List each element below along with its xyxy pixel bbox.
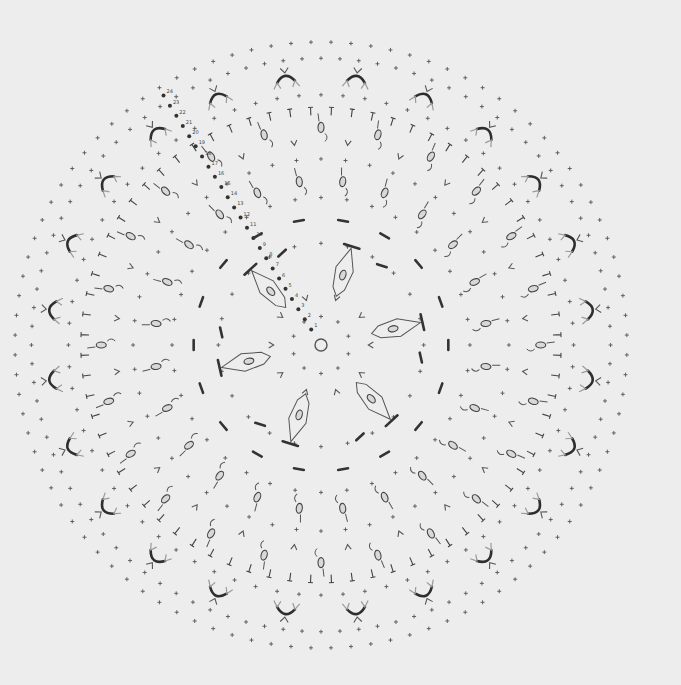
sc-plus-icon [548,449,552,453]
sc-plus-icon [269,642,273,646]
chain-loop-icon [471,185,482,196]
sc-plus-icon [179,393,183,397]
dc-tee-icon [157,168,166,177]
sc-plus-icon [426,570,430,574]
sc-plus-icon [349,41,353,45]
v-stitch-icon [522,368,528,375]
chain-loop-icon [469,403,481,412]
sc-plus-icon [59,216,63,220]
sc-plus-icon [96,550,100,554]
dc-tee-icon [329,575,334,583]
sc-plus-icon [599,269,603,273]
dc-tee-icon [267,112,274,121]
sc-plus-icon [329,646,333,650]
sc-plus-icon [157,151,161,155]
post-bar-icon [439,383,442,392]
sc-plus-icon [250,638,254,642]
sc-plus-icon [538,468,542,472]
sc-plus-icon [101,532,105,536]
scallop-arc-icon [208,587,227,599]
sc-plus-icon [621,294,625,298]
sc-plus-icon [220,317,224,321]
round-number-label: 22 [179,109,185,115]
sc-plus-icon [346,441,350,445]
v-stitch-icon [127,419,134,426]
sc-plus-icon [549,168,553,172]
sc-plus-icon [26,431,30,435]
sc-plus-icon [464,591,468,595]
dc-tee-icon [526,449,535,457]
v-stitch-icon [277,312,285,320]
dc-tee-icon [476,513,485,522]
round-number-label: 2 [308,312,311,318]
sc-plus-icon [587,233,591,237]
sc-plus-icon [13,333,17,337]
sc-plus-icon [140,166,144,170]
chain-loop-icon [374,550,382,561]
v-stitch-icon [238,530,245,537]
doily-diagram: 123456789101112131415161718192021222324 [0,0,681,685]
sc-plus-icon [542,550,546,554]
dc-tee-icon [91,412,100,419]
dc-tee-icon [408,124,416,133]
round-marker [213,175,217,179]
sc-plus-icon [59,503,63,507]
post-bar-icon [420,353,422,363]
sc-plus-icon [408,53,412,57]
sc-plus-icon [289,645,293,649]
dc-tee-icon [287,109,293,118]
sc-plus-icon [245,471,249,475]
v-stitch-icon [41,305,47,314]
chain-loop-icon [162,277,174,286]
sc-plus-icon [445,67,449,71]
round-marker [206,165,210,169]
sc-plus-icon [70,519,74,523]
v-stitch-icon [209,85,218,93]
sc-plus-icon [292,334,296,338]
round-number-label: 5 [289,282,292,288]
sc-plus-icon [230,53,234,57]
chain-loop-icon [260,550,268,561]
post-bar-icon [220,422,226,430]
sc-plus-icon [125,109,129,113]
chain-loop-icon [417,470,428,482]
sc-plus-icon [302,366,306,370]
sc-plus-icon [208,608,212,612]
sc-plus-icon [125,577,129,581]
chain-loop-icon [339,269,348,280]
round-number-label: 9 [263,241,266,247]
post-bar-icon [200,383,203,392]
dc-tee-icon [444,143,453,152]
sc-plus-icon [40,468,44,472]
sc-plus-icon [143,116,147,120]
sc-plus-icon [186,475,190,479]
crochet-chart: 123456789101112131415161718192021222324 [0,0,681,685]
dc-tee-icon [460,526,469,535]
round-number-label: 20 [192,129,198,135]
sc-plus-icon [481,151,485,155]
sc-plus-icon [35,287,39,291]
sc-plus-icon [75,278,79,282]
sc-plus-icon [413,504,417,508]
sc-plus-icon [384,585,388,589]
sc-plus-icon [172,317,176,321]
chart-symbols: 123456789101112131415161718192021222324 [13,40,629,650]
sc-plus-icon [418,369,422,373]
sc-plus-icon [212,570,216,574]
chain-loop-icon [380,491,389,503]
sc-plus-icon [244,66,248,70]
sc-plus-icon [137,295,141,299]
post-bar-icon [338,468,348,470]
post-bar-icon [218,360,222,376]
sc-plus-icon [114,546,118,550]
v-stitch-icon [396,153,403,160]
chain-loop-icon [295,409,304,420]
dc-tee-icon [157,513,166,522]
sc-plus-icon [112,486,116,490]
sc-plus-icon [556,429,560,433]
dc-tee-icon [227,124,235,133]
sc-plus-icon [270,163,274,167]
dc-tee-icon [369,112,376,121]
sc-plus-icon [579,470,583,474]
sc-plus-icon [625,353,629,357]
